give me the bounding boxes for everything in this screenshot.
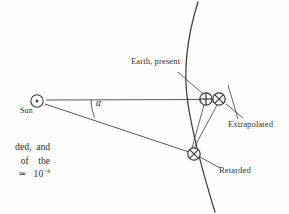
retarded-to-extrapolated-line <box>194 105 217 148</box>
retarded-to-earth-present-line <box>192 105 204 148</box>
earth-present-label: Earth, present <box>131 57 180 66</box>
body-text-line-1: ded, and <box>0 140 52 154</box>
body-text-line-3-exponent: −4 <box>43 167 50 174</box>
diagram-canvas <box>0 0 289 214</box>
angle-alpha-arc <box>91 100 95 118</box>
sun-label: Sun <box>20 107 33 115</box>
body-text-line-3: ≃ 10−4 <box>0 167 52 181</box>
angle-alpha-label: α <box>96 99 101 109</box>
extrapolated-label: Extrapolated <box>228 120 273 129</box>
earth-circle-cross-symbol-retarded <box>188 148 200 160</box>
orbit-arc <box>186 2 215 212</box>
leader-retarded <box>200 157 220 168</box>
sun-earth-retarded-position-diagram: Sun Earth, present Extrapolated Retarded… <box>0 0 289 214</box>
body-text-line-3-base: ≃ 10 <box>18 168 43 179</box>
earth-circle-plus-symbol <box>200 93 212 105</box>
body-text-fragment: ded, and of the ≃ 10−4 <box>0 140 52 181</box>
leader-earth-present <box>178 72 203 94</box>
sun-to-retarded-line <box>45 104 189 152</box>
earth-circle-cross-symbol-extrapolated <box>213 93 225 105</box>
retarded-label: Retarded <box>219 166 251 175</box>
sun-to-earth-present-line <box>46 100 200 101</box>
body-text-line-2: of the <box>0 154 52 168</box>
tangent-stroke-upper <box>228 85 238 119</box>
